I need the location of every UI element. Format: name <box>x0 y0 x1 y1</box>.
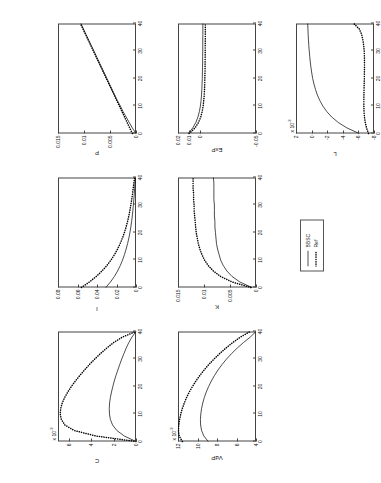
y-tick-mark <box>117 284 118 287</box>
panel-exp-title: ExP <box>211 146 222 152</box>
x-tick-label: 20 <box>138 383 143 389</box>
y-tick-mark <box>114 438 115 441</box>
panel-vdp: VdP x 10-3 4681012010203040 <box>178 331 256 441</box>
y-tick-label: 2 <box>111 443 116 446</box>
x-tick-mark <box>133 259 136 260</box>
x-tick-label: 20 <box>258 229 263 235</box>
y-tick-label: 0.08 <box>56 289 61 299</box>
y-tick-mark <box>198 438 199 441</box>
series-bbsc <box>81 23 136 133</box>
x-tick-mark <box>133 330 136 331</box>
y-tick-label: 0.01 <box>187 135 192 145</box>
x-tick-label: 0 <box>138 132 143 135</box>
y-tick-label: -0.05 <box>254 135 259 146</box>
x-tick-label: 30 <box>138 202 143 208</box>
y-tick-mark <box>204 284 205 287</box>
y-tick-label: 0.02 <box>176 135 181 145</box>
x-tick-mark <box>253 77 256 78</box>
x-tick-mark <box>253 440 256 441</box>
x-tick-label: 0 <box>138 286 143 289</box>
x-tick-mark <box>253 330 256 331</box>
x-tick-mark <box>253 22 256 23</box>
panel-c-title: C <box>95 458 99 464</box>
x-tick-mark <box>133 105 136 106</box>
series-bbsc <box>308 23 359 133</box>
series-bbsc <box>109 331 136 441</box>
x-tick-label: 30 <box>258 202 263 208</box>
x-tick-mark <box>133 50 136 51</box>
x-tick-mark <box>133 231 136 232</box>
panel-k-title: K <box>215 304 219 310</box>
y-tick-mark <box>178 284 179 287</box>
y-tick-mark <box>237 438 238 441</box>
panel-c: C x 10-3 0246010203040 <box>58 331 136 441</box>
x-tick-mark <box>371 50 374 51</box>
y-tick-mark <box>84 130 85 133</box>
y-tick-label: 0.06 <box>75 289 80 299</box>
x-tick-mark <box>253 385 256 386</box>
x-tick-mark <box>133 385 136 386</box>
x-tick-label: 20 <box>258 383 263 389</box>
panel-vdp-plot <box>178 331 256 441</box>
x-tick-mark <box>133 176 136 177</box>
x-tick-label: 20 <box>376 75 381 81</box>
y-tick-label: 0 <box>134 135 139 138</box>
y-tick-mark <box>189 130 190 133</box>
x-tick-label: 40 <box>138 174 143 180</box>
panel-l: L x 10-3 20-2-4-6-8010203040 <box>296 23 374 133</box>
x-tick-mark <box>253 259 256 260</box>
x-tick-label: 10 <box>258 103 263 109</box>
legend-box: BBSC Ref <box>300 219 324 271</box>
y-tick-mark <box>217 438 218 441</box>
x-tick-mark <box>371 105 374 106</box>
legend-entry-bbsc: BBSC <box>304 224 312 266</box>
x-tick-label: 0 <box>258 440 263 443</box>
panel-k: K 00.0050.010.015010203040 <box>178 177 256 287</box>
x-tick-label: 0 <box>138 440 143 443</box>
y-tick-mark <box>200 130 201 133</box>
figure-rotator: C x 10-3 0246010203040 VdP x 10-3 468101… <box>38 0 282 483</box>
y-tick-label: 0 <box>134 443 139 446</box>
y-tick-label: 6 <box>234 443 239 446</box>
legend-label-bbsc: BBSC <box>306 233 311 247</box>
panel-i-plot <box>58 177 136 287</box>
y-tick-label: 0.005 <box>108 135 113 148</box>
panel-vdp-y-exponent-base: x 10 <box>171 431 177 440</box>
series-bbsc <box>200 331 256 441</box>
x-tick-label: 30 <box>258 356 263 362</box>
x-tick-mark <box>133 77 136 78</box>
x-tick-label: 30 <box>258 48 263 54</box>
panel-l-y-exponent: x 10-3 <box>287 119 295 132</box>
x-tick-label: 30 <box>138 356 143 362</box>
y-tick-mark <box>91 438 92 441</box>
legend-label-ref: Ref <box>314 239 319 247</box>
x-tick-mark <box>253 413 256 414</box>
x-tick-label: 0 <box>258 286 263 289</box>
legend-entry-ref: Ref <box>312 224 320 266</box>
y-tick-mark <box>343 130 344 133</box>
y-tick-mark <box>69 438 70 441</box>
y-tick-label: 2 <box>294 135 299 138</box>
series-bbsc <box>106 177 136 287</box>
y-tick-label: -2 <box>325 135 330 139</box>
x-tick-mark <box>371 77 374 78</box>
y-tick-label: 0.02 <box>114 289 119 299</box>
y-tick-mark <box>58 284 59 287</box>
y-tick-mark <box>58 130 59 133</box>
y-tick-mark <box>296 130 297 133</box>
x-tick-mark <box>253 358 256 359</box>
y-tick-label: 0 <box>134 289 139 292</box>
x-tick-label: 0 <box>258 132 263 135</box>
x-tick-label: 10 <box>138 411 143 417</box>
y-tick-label: 0.015 <box>176 289 181 302</box>
x-tick-mark <box>253 176 256 177</box>
panel-l-plot <box>296 23 374 133</box>
y-tick-label: 0.04 <box>95 289 100 299</box>
y-tick-label: 4 <box>254 443 259 446</box>
panel-l-y-exponent-power: -3 <box>287 119 292 123</box>
x-tick-label: 40 <box>138 20 143 26</box>
panel-c-y-exponent: x 10-3 <box>49 427 57 440</box>
y-tick-mark <box>178 130 179 133</box>
panel-i: I 00.020.040.060.08010203040 <box>58 177 136 287</box>
y-tick-mark <box>97 284 98 287</box>
